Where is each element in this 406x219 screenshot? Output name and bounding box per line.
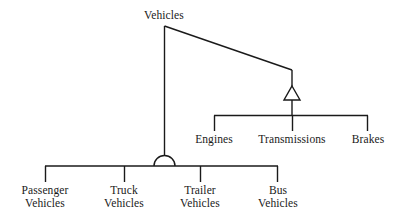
node-text-bus-line2: Vehicles: [258, 197, 298, 210]
node-label-trailer-vehicles: Trailer Vehicles: [180, 184, 220, 210]
node-label-vehicles: Vehicles: [144, 9, 184, 22]
node-text-truck-line2: Vehicles: [104, 197, 144, 210]
node-text-bus-line1: Bus: [269, 184, 287, 196]
node-label-passenger-vehicles: Passenger Vehicles: [22, 184, 69, 210]
node-label-transmissions: Transmissions: [258, 133, 325, 146]
semicircle-arc-marker: [154, 156, 175, 166]
node-text-trailer-line1: Trailer: [184, 184, 216, 196]
node-text-transmissions: Transmissions: [258, 133, 325, 145]
node-text-brakes: Brakes: [352, 133, 385, 145]
node-text-engines: Engines: [195, 133, 233, 145]
node-label-brakes: Brakes: [352, 133, 385, 146]
root-to-aggregation-diagonal: [165, 26, 293, 70]
node-label-truck-vehicles: Truck Vehicles: [104, 184, 144, 210]
node-text-vehicles: Vehicles: [144, 9, 184, 21]
uml-diagram-canvas: Vehicles Engines Transmissions Brakes Pa…: [0, 0, 406, 219]
node-label-bus-vehicles: Bus Vehicles: [258, 184, 298, 210]
node-text-passenger-line1: Passenger: [22, 184, 69, 196]
node-text-truck-line1: Truck: [110, 184, 138, 196]
node-label-engines: Engines: [195, 133, 233, 146]
node-text-passenger-line2: Vehicles: [22, 197, 69, 210]
hollow-triangle-marker: [284, 86, 300, 100]
node-text-trailer-line2: Vehicles: [180, 197, 220, 210]
